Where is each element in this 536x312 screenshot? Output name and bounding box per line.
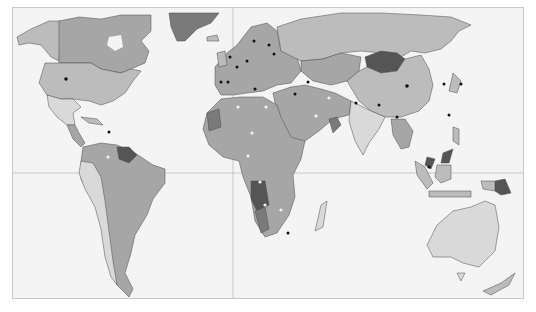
marker-angola-light: [263, 203, 266, 206]
region-borneo-north: [441, 149, 453, 163]
marker-korea: [443, 83, 446, 86]
marker-algeria-light: [236, 105, 239, 108]
marker-saudi-light: [314, 114, 317, 117]
marker-turkey: [307, 81, 310, 84]
region-indonesia: [415, 161, 471, 197]
world-map: [13, 8, 524, 299]
marker-gabon-light: [258, 180, 261, 183]
marker-uk: [229, 56, 232, 59]
region-papua-new-guinea: [495, 179, 511, 195]
marker-taiwan: [448, 114, 451, 117]
marker-portugal: [227, 81, 230, 84]
region-tasmania: [457, 273, 465, 281]
marker-sweden: [253, 40, 256, 43]
region-central-america: [67, 125, 85, 147]
marker-usa: [64, 77, 68, 81]
marker-south-africa: [287, 232, 290, 235]
region-philippines: [453, 127, 459, 145]
marker-libya-light: [264, 105, 267, 108]
marker-france: [236, 66, 239, 69]
marker-italy: [254, 88, 257, 91]
marker-zambia-light: [279, 208, 282, 211]
region-japan: [449, 73, 461, 93]
marker-sudan-light: [246, 154, 249, 157]
marker-niger-light: [250, 131, 253, 134]
marker-bangladesh: [396, 116, 399, 119]
marker-iran-light: [327, 96, 330, 99]
region-new-guinea-west: [481, 181, 495, 191]
marker-spain: [220, 81, 223, 84]
region-britain: [217, 51, 227, 67]
region-cuba: [81, 117, 103, 125]
region-new-zealand: [483, 273, 515, 295]
marker-venezuela-light: [106, 155, 109, 158]
marker-israel: [294, 93, 297, 96]
marker-japan: [460, 83, 463, 86]
marker-nepal: [378, 104, 381, 107]
marker-finland: [268, 44, 271, 47]
marker-poland: [273, 53, 276, 56]
region-southeast-asia: [391, 119, 413, 149]
region-oman: [329, 117, 341, 133]
region-iceland: [207, 35, 219, 41]
region-mauritania: [207, 109, 221, 131]
marker-malaysia: [428, 166, 431, 169]
marker-caribbean: [108, 131, 111, 134]
region-madagascar: [315, 201, 327, 231]
marker-china: [405, 84, 409, 88]
marker-pakistan: [355, 102, 358, 105]
region-alaska: [17, 21, 61, 61]
world-map-frame: [12, 7, 524, 299]
region-australia: [427, 201, 499, 267]
marker-germany: [246, 60, 249, 63]
